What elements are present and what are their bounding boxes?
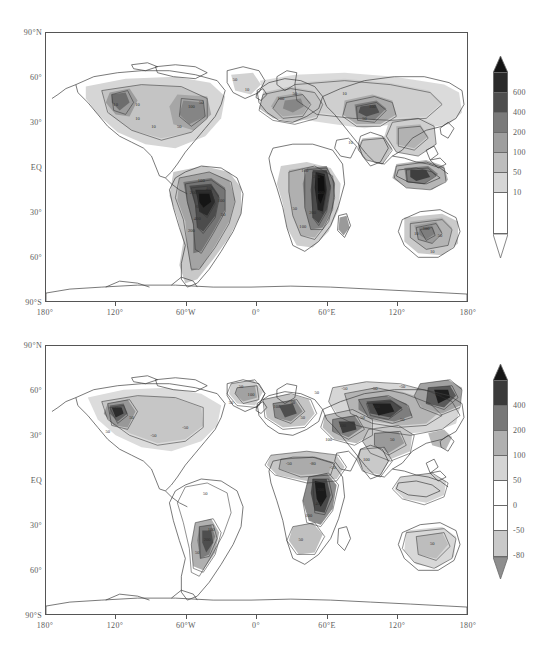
xtick-label-120e: 120° bbox=[377, 621, 417, 630]
contour-label: 400 bbox=[317, 190, 325, 195]
contour-label: 10 bbox=[245, 87, 250, 92]
colorbar-bottom-tick-100: 100 bbox=[513, 451, 526, 460]
xtick-mark bbox=[256, 302, 257, 306]
map-bottom[interactable]: 100 50 50 -50 -50 50 100 50 100 50 50 50… bbox=[45, 345, 468, 615]
colorbar-top-tick-600: 600 bbox=[513, 88, 526, 97]
colorbar-segment-200-400 bbox=[494, 113, 507, 133]
xtick-label-0: 0° bbox=[236, 308, 276, 317]
ytick-label-60n: 60° bbox=[8, 386, 42, 395]
colorbar-segment-50-100 bbox=[494, 153, 507, 173]
contour-label: 50 bbox=[299, 537, 304, 542]
colorbar-top-tick-400: 400 bbox=[513, 108, 526, 117]
xtick-label-180e: 180° bbox=[448, 621, 488, 630]
colorbar-top[interactable]: 600 400 200 100 50 10 bbox=[493, 72, 543, 272]
ytick-label-30n: 30° bbox=[8, 118, 42, 127]
colorbar-top-tick-10: 10 bbox=[513, 188, 522, 197]
colorbar-segment-lt10 bbox=[494, 193, 507, 233]
contour-label: 400 bbox=[206, 186, 214, 191]
contour-label: 50 bbox=[360, 415, 365, 420]
colorbar-bottom-tick-0: 0 bbox=[513, 501, 517, 510]
contour-label: 50 bbox=[229, 400, 234, 405]
contour-label: -80 bbox=[310, 461, 317, 466]
contour-label: 100 bbox=[325, 437, 333, 442]
contour-label: 50 bbox=[221, 212, 226, 217]
xtick-mark bbox=[327, 615, 328, 619]
ytick-label-90s: 90°S bbox=[8, 298, 42, 307]
colorbar-top-max-arrow bbox=[493, 56, 508, 73]
contour-label: 100 bbox=[423, 226, 431, 231]
colorbar-segment-100-200 bbox=[494, 431, 507, 456]
colorbar-segment-200-400 bbox=[494, 406, 507, 431]
contour-label: 100 bbox=[114, 406, 122, 411]
contour-label: 100 bbox=[218, 198, 226, 203]
contour-label: 200 bbox=[190, 190, 198, 195]
colorbar-bottom-tick-50: 50 bbox=[513, 476, 522, 485]
contour-label: 200 bbox=[317, 487, 325, 492]
colorbar-top-min-arrow bbox=[493, 234, 508, 258]
contour-label: 50 bbox=[195, 550, 200, 555]
contour-label: 50 bbox=[129, 415, 134, 420]
xtick-mark bbox=[115, 615, 116, 619]
contour-label: 10 bbox=[414, 231, 419, 236]
contour-label: 100 bbox=[305, 513, 313, 518]
contour-label: 50 bbox=[362, 116, 367, 121]
colorbar-bottom-body[interactable] bbox=[493, 380, 508, 557]
ytick-label-90s: 90°S bbox=[8, 611, 42, 620]
contour-label: 50 bbox=[400, 417, 405, 422]
ytick-label-60n: 60° bbox=[8, 73, 42, 82]
xtick-label-60e: 60°E bbox=[307, 308, 347, 317]
contour-label: 100 bbox=[248, 392, 256, 397]
xtick-label-120w: 120° bbox=[95, 621, 135, 630]
colorbar-bottom[interactable]: 400 200 100 50 0 -50 -80 bbox=[493, 380, 543, 590]
colorbar-segment-100-200 bbox=[494, 133, 507, 153]
colorbar-bottom-tick-200: 200 bbox=[513, 426, 526, 435]
xtick-label-120w: 120° bbox=[95, 308, 135, 317]
xtick-mark bbox=[256, 615, 257, 619]
contour-label: 200 bbox=[313, 174, 321, 179]
contour-label: 200 bbox=[188, 228, 196, 233]
ytick-label-60s: 60° bbox=[8, 566, 42, 575]
xtick-label-0: 0° bbox=[236, 621, 276, 630]
colorbar-segment-gt400 bbox=[494, 381, 507, 406]
contour-label: 100 bbox=[301, 168, 309, 173]
colorbar-top-tick-200: 200 bbox=[513, 128, 526, 137]
colorbar-top-body[interactable] bbox=[493, 72, 508, 234]
contour-label: 400 bbox=[315, 501, 323, 506]
xtick-label-120e: 120° bbox=[377, 308, 417, 317]
xtick-mark bbox=[327, 302, 328, 306]
contour-label: -50 bbox=[182, 425, 189, 430]
xtick-mark bbox=[186, 615, 187, 619]
contour-label: 50 bbox=[177, 124, 182, 129]
colorbar-bottom-max-arrow bbox=[493, 364, 508, 381]
contour-label: 100 bbox=[369, 104, 377, 109]
xtick-label-60w: 60°W bbox=[166, 308, 206, 317]
colorbar-segment-10-50 bbox=[494, 173, 507, 193]
ytick-label-90n: 90°N bbox=[8, 341, 42, 350]
contour-label: 50 bbox=[390, 437, 395, 442]
contour-label: -50 bbox=[371, 386, 378, 391]
contour-label: 200 bbox=[204, 537, 212, 542]
xtick-mark bbox=[115, 302, 116, 306]
contour-label: 10 bbox=[342, 91, 347, 96]
contour-label: 100 bbox=[435, 392, 443, 397]
contour-label: 10 bbox=[151, 124, 156, 129]
contour-label: 50 bbox=[430, 541, 435, 546]
colorbar-segment-gt600 bbox=[494, 73, 507, 93]
contour-label: 50 bbox=[203, 491, 208, 496]
map-top[interactable]: 10 10 10 10 50 100 50 50 10 100 200 400 … bbox=[45, 32, 468, 302]
contour-label: 200 bbox=[309, 210, 317, 215]
xtick-mark bbox=[397, 302, 398, 306]
xtick-label-60e: 60°E bbox=[307, 621, 347, 630]
colorbar-bottom-tick-400: 400 bbox=[513, 401, 526, 410]
contour-label: 600 bbox=[196, 204, 204, 209]
xtick-label-180e: 180° bbox=[448, 308, 488, 317]
contour-label: -50 bbox=[330, 465, 337, 470]
contour-label: 10 bbox=[113, 102, 118, 107]
contour-label: 50 bbox=[293, 206, 298, 211]
contour-label: 100 bbox=[363, 457, 371, 462]
colorbar-bottom-tick-neg50: -50 bbox=[513, 526, 525, 535]
colorbar-top-tick-50: 50 bbox=[513, 168, 522, 177]
contour-label: 400 bbox=[194, 216, 202, 221]
map-bottom-canvas: 100 50 50 -50 -50 50 100 50 100 50 50 50… bbox=[46, 346, 467, 614]
contour-label: 100 bbox=[198, 178, 206, 183]
